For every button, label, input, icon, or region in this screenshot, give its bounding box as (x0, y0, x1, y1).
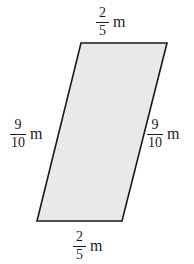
unit-top: m (113, 14, 125, 30)
figure-stage: 2 5 m 9 10 m 9 10 m 2 5 m (0, 0, 194, 264)
label-top-side: 2 5 m (96, 6, 125, 38)
label-left-side: 9 10 m (10, 118, 42, 150)
fraction-top-denominator: 5 (98, 24, 107, 39)
fraction-left: 9 10 (10, 118, 26, 150)
unit-left: m (30, 126, 42, 142)
fraction-bottom: 2 5 (73, 230, 86, 262)
fraction-bottom-denominator: 5 (75, 248, 84, 263)
fraction-right-numerator: 9 (151, 118, 160, 133)
fraction-right: 9 10 (147, 118, 163, 150)
label-right-side: 9 10 m (147, 118, 179, 150)
fraction-right-denominator: 10 (147, 136, 163, 151)
fraction-top-numerator: 2 (98, 6, 107, 21)
unit-bottom: m (90, 238, 102, 254)
label-bottom-side: 2 5 m (73, 230, 102, 262)
fraction-top: 2 5 (96, 6, 109, 38)
fraction-bottom-numerator: 2 (75, 230, 84, 245)
fraction-left-denominator: 10 (10, 136, 26, 151)
unit-right: m (167, 126, 179, 142)
fraction-left-numerator: 9 (14, 118, 23, 133)
